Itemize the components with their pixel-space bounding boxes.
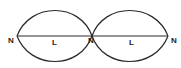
- node-label-left: N: [8, 36, 14, 45]
- node-label-right: N: [171, 36, 177, 45]
- loop-1-upper-curve: [17, 11, 92, 37]
- standing-wave-diagram: N N N L L: [0, 0, 181, 68]
- loop-label-2: L: [129, 38, 134, 47]
- loop-2-upper-curve: [92, 11, 168, 37]
- node-label-middle: N: [88, 36, 94, 45]
- loop-label-1: L: [52, 38, 57, 47]
